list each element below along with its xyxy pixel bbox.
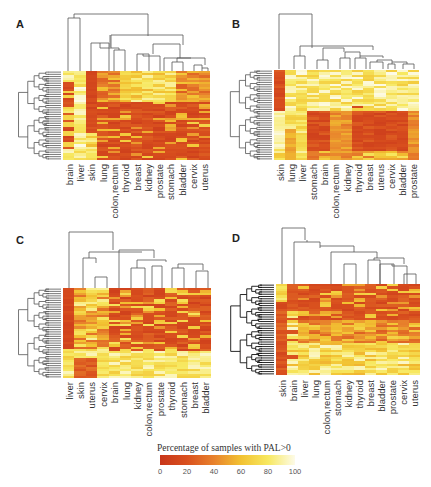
column-label: kidney — [343, 380, 354, 450]
heatmap-cell — [63, 376, 74, 378]
column-label: skin — [86, 164, 97, 234]
column-dendrogram-c — [63, 228, 213, 290]
legend-tick-label: 0 — [158, 467, 162, 476]
column-label: stomach — [165, 164, 176, 234]
column-label: breast — [365, 380, 376, 450]
column-label: stomach — [178, 382, 189, 452]
heatmap-cell — [374, 158, 385, 160]
column-label: skin — [277, 380, 288, 450]
heatmap-cell — [409, 373, 420, 375]
column-label: lung — [98, 164, 109, 234]
column-label: stomach — [308, 164, 319, 234]
column-label: brain — [64, 164, 75, 234]
column-label: liver — [64, 382, 75, 452]
column-label: kidney — [143, 164, 154, 234]
heatmap-cell — [352, 158, 363, 160]
column-label: breast — [189, 382, 200, 452]
heatmap-cell — [176, 158, 187, 160]
row-dendrogram-a — [10, 71, 63, 161]
column-label: lung — [121, 382, 132, 452]
panel-letter-c: C — [16, 234, 24, 246]
heatmap-cell — [296, 158, 307, 160]
heatmap-cell — [376, 373, 387, 375]
color-legend: Percentage of samples with PAL>0 0204060… — [155, 443, 315, 477]
heatmap-cell — [342, 373, 353, 375]
heatmap-cell — [330, 158, 341, 160]
column-label: thyroid — [120, 164, 131, 234]
heatmap-cell — [387, 373, 398, 375]
heatmap-cell — [363, 158, 374, 160]
column-label: thyroid — [353, 164, 364, 234]
heatmap-cell — [285, 158, 296, 160]
column-label: prostate — [154, 164, 165, 234]
column-dendrogram-d — [276, 226, 424, 286]
heatmap-cell — [287, 373, 298, 375]
column-label: breast — [364, 164, 375, 234]
heatmap-cell — [97, 158, 108, 160]
column-label: colon,rectum — [330, 164, 341, 234]
column-label: colon,rectum — [109, 164, 120, 234]
column-label: colon,rectum — [143, 382, 154, 452]
column-label: brain — [109, 382, 120, 452]
heatmap-cell — [320, 373, 331, 375]
column-label: bladder — [376, 380, 387, 450]
legend-tick-label: 80 — [264, 467, 272, 476]
heatmap-cell — [341, 158, 352, 160]
heatmap-cell — [200, 376, 211, 378]
column-label: brain — [288, 380, 299, 450]
heatmap-d — [276, 284, 420, 375]
panel-letter-d: D — [232, 232, 240, 244]
column-dendrogram-b — [274, 12, 422, 70]
heatmap-cell — [74, 158, 85, 160]
column-dendrogram-a — [63, 10, 213, 72]
column-label: thyroid — [354, 380, 365, 450]
column-label: brain — [319, 164, 330, 234]
heatmap-cell — [177, 376, 188, 378]
heatmap-cell — [108, 158, 119, 160]
legend-ticks: 020406080100 — [160, 465, 295, 477]
column-label: cervix — [398, 380, 409, 450]
heatmap-cell — [143, 376, 154, 378]
heatmap-cell — [199, 158, 210, 160]
legend-title: Percentage of samples with PAL>0 — [157, 443, 315, 453]
column-label: bladder — [200, 382, 211, 452]
row-dendrogram-b — [222, 70, 274, 162]
column-label: stomach — [332, 380, 343, 450]
heatmap-cell — [109, 376, 120, 378]
column-label: bladder — [397, 164, 408, 234]
column-label: uterus — [409, 380, 420, 450]
heatmap-cell — [187, 158, 198, 160]
column-label: lung — [310, 380, 321, 450]
heatmap-cell — [142, 158, 153, 160]
heatmap-cell — [120, 376, 131, 378]
heatmap-cell — [63, 158, 74, 160]
column-label: prostate — [387, 380, 398, 450]
heatmap-a — [63, 71, 210, 160]
legend-tick-label: 40 — [210, 467, 218, 476]
column-label: prostate — [155, 382, 166, 452]
column-label: kidney — [132, 382, 143, 452]
heatmap-cell — [131, 158, 142, 160]
heatmap-cell — [97, 376, 108, 378]
legend-color-bar — [160, 455, 295, 465]
column-label: uterus — [86, 382, 97, 452]
legend-tick-label: 60 — [237, 467, 245, 476]
column-label: uterus — [199, 164, 210, 234]
column-label: prostate — [408, 164, 419, 234]
heatmap-cell — [309, 373, 320, 375]
heatmap-b — [274, 70, 419, 160]
heatmap-cell — [120, 158, 131, 160]
heatmap-cell — [165, 158, 176, 160]
legend-tick-label: 100 — [289, 467, 302, 476]
heatmap-cell — [298, 373, 309, 375]
heatmap-c — [63, 288, 211, 378]
column-label: kidney — [342, 164, 353, 234]
column-label: liver — [299, 380, 310, 450]
row-dendrogram-d — [222, 284, 276, 376]
heatmap-cell — [86, 158, 97, 160]
heatmap-cell — [131, 376, 142, 378]
column-label: cervix — [98, 382, 109, 452]
heatmap-cell — [188, 376, 199, 378]
column-label: bladder — [177, 164, 188, 234]
heatmap-cell — [331, 373, 342, 375]
